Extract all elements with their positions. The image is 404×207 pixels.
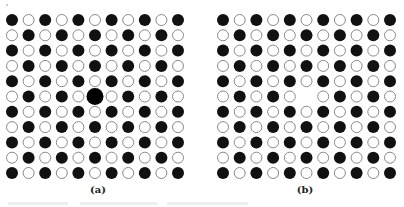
filled-atom (384, 45, 396, 57)
hollow-atom (73, 122, 84, 133)
filled-atom (106, 14, 118, 26)
hollow-atom (318, 122, 329, 133)
hollow-atom (156, 137, 167, 148)
hollow-atom (40, 60, 51, 71)
hollow-atom (218, 60, 229, 71)
hollow-atom (7, 60, 18, 71)
hollow-atom (173, 30, 184, 41)
hollow-atom (251, 60, 262, 71)
hollow-atom (385, 122, 396, 133)
filled-atom (172, 136, 184, 148)
hollow-atom (23, 76, 34, 87)
hollow-atom (334, 106, 345, 117)
hollow-atom (90, 15, 101, 26)
filled-atom (217, 167, 229, 179)
hollow-atom (7, 30, 18, 41)
hollow-atom (351, 60, 362, 71)
hollow-atom (385, 91, 396, 102)
filled-atom (334, 121, 346, 133)
hollow-atom (123, 45, 134, 56)
filled-atom (217, 75, 229, 87)
hollow-atom (123, 15, 134, 26)
hollow-atom (139, 60, 150, 71)
filled-atom (39, 136, 51, 148)
hollow-atom (284, 152, 295, 163)
hollow-atom (318, 91, 329, 102)
filled-atom (155, 121, 167, 133)
hollow-atom (234, 137, 245, 148)
filled-atom (250, 136, 262, 148)
hollow-atom (234, 15, 245, 26)
filled-atom (351, 106, 363, 118)
filled-atom (106, 75, 118, 87)
hollow-atom (90, 76, 101, 87)
hollow-atom (23, 106, 34, 117)
hollow-atom (156, 76, 167, 87)
filled-atom (267, 152, 279, 164)
filled-atom (284, 45, 296, 57)
hollow-atom (7, 122, 18, 133)
filled-atom (317, 136, 329, 148)
hollow-atom (139, 91, 150, 102)
hollow-atom (73, 30, 84, 41)
filled-atom (234, 91, 246, 103)
filled-atom (155, 152, 167, 164)
filled-atom (284, 136, 296, 148)
hollow-atom (268, 137, 279, 148)
hollow-atom (218, 122, 229, 133)
filled-atom (139, 136, 151, 148)
filled-atom (139, 75, 151, 87)
hollow-atom (123, 137, 134, 148)
filled-atom (317, 14, 329, 26)
filled-atom (6, 106, 18, 118)
hollow-atom (123, 106, 134, 117)
panel-label-a: (a) (90, 184, 106, 195)
filled-atom (317, 45, 329, 57)
hollow-atom (301, 76, 312, 87)
filled-atom (172, 14, 184, 26)
filled-atom (39, 14, 51, 26)
hollow-atom (351, 152, 362, 163)
hollow-atom (385, 152, 396, 163)
hollow-atom (385, 30, 396, 41)
filled-atom (139, 45, 151, 57)
hollow-atom (139, 30, 150, 41)
hollow-atom (234, 76, 245, 87)
hollow-atom (301, 15, 312, 26)
hollow-atom (156, 15, 167, 26)
hollow-atom (106, 60, 117, 71)
hollow-atom (7, 152, 18, 163)
filled-atom (72, 136, 84, 148)
hollow-atom (234, 45, 245, 56)
filled-atom (334, 91, 346, 103)
filled-atom (301, 60, 313, 72)
hollow-atom (368, 45, 379, 56)
filled-atom (351, 167, 363, 179)
filled-atom (89, 121, 101, 133)
filled-atom (301, 152, 313, 164)
filled-atom (267, 60, 279, 72)
lattice-b (211, 0, 404, 182)
hollow-atom (334, 168, 345, 179)
filled-atom (267, 29, 279, 41)
filled-atom (89, 60, 101, 72)
filled-atom (6, 167, 18, 179)
hollow-atom (156, 45, 167, 56)
filled-atom (72, 167, 84, 179)
filled-atom (172, 106, 184, 118)
filled-atom (89, 29, 101, 41)
hollow-atom (234, 168, 245, 179)
filled-atom (56, 91, 68, 103)
hollow-atom (334, 45, 345, 56)
hollow-atom (251, 91, 262, 102)
filled-atom (250, 45, 262, 57)
hollow-atom (40, 91, 51, 102)
filled-atom (334, 29, 346, 41)
hollow-atom (301, 137, 312, 148)
hollow-atom (90, 137, 101, 148)
hollow-atom (351, 30, 362, 41)
filled-atom (317, 106, 329, 118)
hollow-atom (173, 60, 184, 71)
filled-atom (56, 29, 68, 41)
filled-atom (284, 106, 296, 118)
